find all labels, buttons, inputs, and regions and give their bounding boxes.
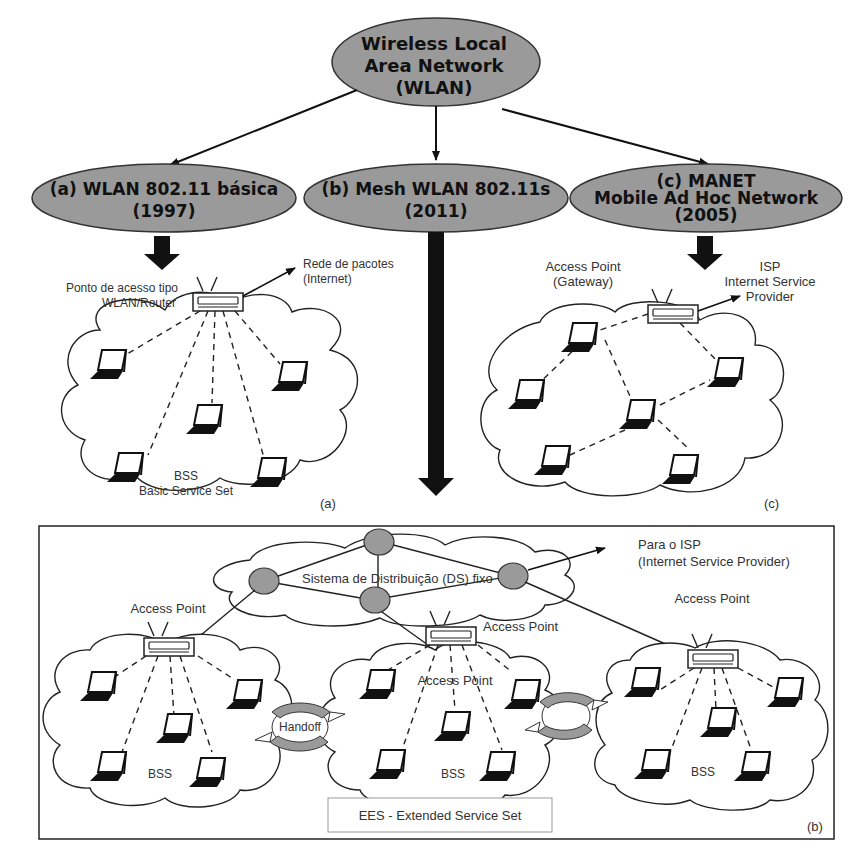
branch-b-title-line-1: (b) Mesh WLAN 802.11s (322, 179, 551, 199)
panel-tag-b: (b) (807, 819, 823, 834)
access-point-3 (688, 634, 738, 668)
bss-label-b-1: BSS (148, 767, 172, 781)
uplink-label-c-line-1: ISP (760, 259, 781, 274)
uplink-label-b-line-1: Para o ISP (638, 537, 701, 552)
uplink-arrow-c (698, 296, 740, 311)
branch-a-node: (a) WLAN 802.11 básica (1997) (32, 164, 296, 232)
root-node: Wireless Local Area Network (WLAN) (332, 18, 540, 106)
uplink-label-c-line-3: Provider (746, 289, 795, 304)
uplink-label-a-line-1: Rede de pacotes (303, 257, 394, 271)
branch-a-title-line-1: (a) WLAN 802.11 básica (50, 179, 278, 199)
ds-node (360, 587, 390, 613)
branch-b-node: (b) Mesh WLAN 802.11s (2011) (304, 164, 568, 232)
ap-label-b-4: Access Point (674, 591, 750, 606)
branch-a-title-line-2: (1997) (133, 201, 196, 221)
uplink-arrow-a (243, 268, 295, 296)
ds-node (249, 568, 279, 594)
thick-arrow-b (418, 232, 454, 496)
panel-b: Sistema de Distribuição (DS) fixo Para o… (43, 529, 828, 834)
wlan-diagram: Wireless Local Area Network (WLAN) (a) W… (0, 0, 868, 856)
thick-arrow-a (144, 236, 180, 270)
bss-label-b-2: BSS (441, 767, 465, 781)
ap-label-b-3: Access Point (417, 673, 493, 688)
branch-c-title-line-3: (2005) (675, 205, 738, 225)
bss-label-a-line-1: BSS (174, 469, 198, 483)
branch-c-node: (c) MANET Mobile Ad Hoc Network (2005) (570, 164, 842, 232)
ds-label: Sistema de Distribuição (DS) fixo (302, 571, 493, 586)
ds-node (498, 563, 528, 589)
access-point-c (648, 289, 698, 323)
panel-tag-c: (c) (764, 496, 779, 511)
uplink-label-c-line-2: Internet Service (724, 274, 815, 289)
ap-label-c-line-2: (Gateway) (553, 274, 613, 289)
bss-cloud-2 (318, 642, 562, 808)
access-point-a (193, 277, 243, 311)
ds-node (364, 529, 394, 555)
root-title-line-1: Wireless Local (361, 33, 507, 54)
root-title-line-2: Area Network (364, 55, 504, 76)
bss-cloud-a (62, 292, 358, 490)
bss-label-a-line-2: Basic Service Set (139, 484, 234, 498)
ess-label: EES - Extended Service Set (359, 808, 522, 823)
root-title-line-3: (WLAN) (396, 77, 473, 98)
ap-label-b-2: Access Point (483, 619, 559, 634)
branch-b-title-line-2: (2011) (405, 201, 468, 221)
bss-label-b-3: BSS (691, 765, 715, 779)
panel-c: Access Point (Gateway) ISP Internet Serv… (481, 259, 816, 511)
ap-label-c-line-1: Access Point (545, 259, 621, 274)
ap-label-b-1: Access Point (130, 601, 206, 616)
arrow-root-to-a (170, 90, 357, 165)
access-point-1 (144, 622, 194, 656)
handoff-label: Handoff (279, 720, 321, 734)
ap-label-a-line-2: WLAN/Router (102, 296, 176, 310)
thick-arrow-c (687, 236, 723, 270)
uplink-label-b-line-2: (Internet Service Provider) (638, 554, 790, 569)
panel-tag-a: (a) (320, 496, 336, 511)
arrow-root-to-c (502, 109, 708, 164)
panel-a: Rede de pacotes (Internet) Ponto de aces… (62, 257, 394, 511)
ap-label-a-line-1: Ponto de acesso tipo (66, 281, 178, 295)
uplink-label-a-line-2: (Internet) (303, 272, 352, 286)
